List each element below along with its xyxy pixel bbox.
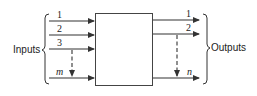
output-label-2: 2 [186,22,191,33]
output-line-1: 1 [153,8,199,20]
input-label-2: 2 [57,23,62,34]
inputs-label: Inputs [13,44,40,55]
output-label-n: n [187,66,192,77]
input-label-1: 1 [57,9,62,20]
inputs-brace [42,14,49,84]
output-line-2: 2 [153,22,199,34]
mimo-block-diagram: Inputs 1 2 3 m 1 2 n Outputs [0,0,257,96]
input-line-3: 3 [49,37,94,49]
input-line-2: 2 [49,23,94,35]
outputs-label: Outputs [211,42,246,53]
outputs-brace [203,14,210,84]
input-label-3: 3 [57,37,62,48]
system-block [96,14,153,86]
output-label-1: 1 [186,8,191,19]
input-label-m: m [56,66,63,77]
output-line-n: n [153,66,199,78]
input-line-1: 1 [49,9,94,21]
